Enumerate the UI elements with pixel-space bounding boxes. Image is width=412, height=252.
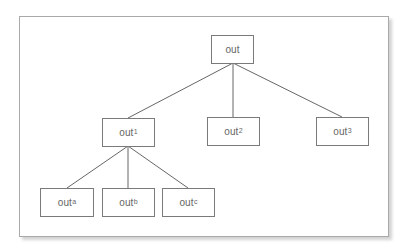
node-label: out: [119, 197, 133, 208]
node-label: out: [180, 197, 194, 208]
node-superscript: a: [72, 198, 76, 205]
node-label: out: [58, 197, 72, 208]
node-label: out: [226, 44, 240, 55]
node-label: out: [333, 126, 347, 137]
node-superscript: c: [194, 198, 198, 205]
node-superscript: 1: [134, 128, 138, 135]
node-label: out: [119, 127, 133, 138]
node-superscript: 3: [348, 127, 352, 134]
node-label: out: [224, 126, 238, 137]
node-out-c: outc: [162, 188, 215, 217]
node-out-2: out2: [207, 117, 260, 146]
node-out-a: outa: [40, 188, 94, 217]
node-out-3: out3: [316, 117, 369, 146]
node-root: out: [211, 35, 254, 64]
node-superscript: b: [134, 198, 138, 205]
node-out-b: outb: [102, 188, 155, 217]
node-out-1: out1: [102, 118, 155, 147]
node-superscript: 2: [239, 127, 243, 134]
